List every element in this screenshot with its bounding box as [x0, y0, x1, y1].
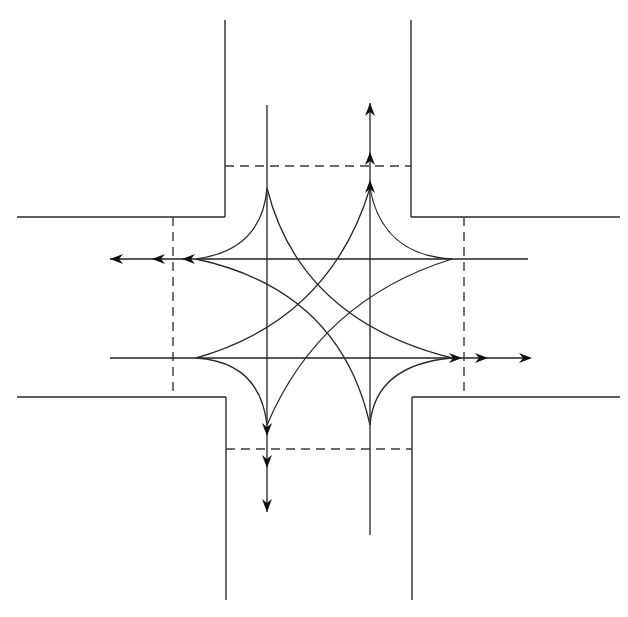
northbound-left-turn [196, 259, 370, 425]
eastbound-right-turn [196, 358, 267, 425]
road-edges [17, 20, 620, 600]
eastbound-left-turn [196, 188, 370, 358]
through-lanes [110, 103, 530, 535]
turn-movements [196, 188, 452, 425]
southbound-right-turn [196, 188, 267, 259]
stop-lines [173, 166, 464, 449]
intersection-diagram [0, 0, 628, 617]
intersection-canvas [0, 0, 628, 617]
southbound-left-turn [267, 188, 452, 358]
westbound-left-turn [267, 259, 452, 425]
northbound-right-turn [370, 358, 452, 425]
